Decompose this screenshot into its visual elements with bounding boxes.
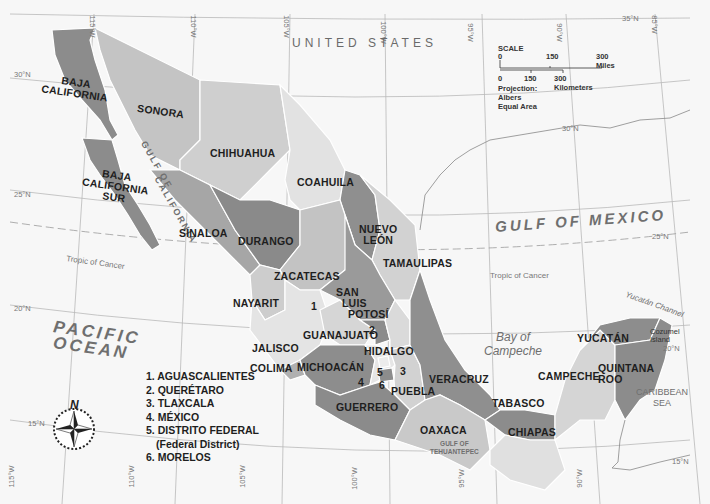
lon-90-bottom-label: 90°W [575, 469, 584, 487]
legend-item: 4. MÉXICO [146, 411, 259, 425]
label-chiapas: CHIAPAS [508, 427, 556, 438]
label-sinaloa: SINALOA [179, 228, 228, 239]
map-scale: SCALE 0 150 300 Miles 0 150 300 Kilomete… [498, 44, 523, 53]
label-nuevo-leon: NUEVO LEÓN [359, 224, 397, 246]
lon-100-bottom-label: 100°W [350, 467, 359, 490]
united-states-label: UNITED STATES [292, 36, 437, 50]
legend-item: 2. QUERÉTARO [146, 384, 259, 398]
lat-20-east-label: 20°N [663, 344, 680, 353]
lat-15-east-label: 15°N [672, 457, 689, 466]
gulf-of-tehuantepec-label: GULF OF TEHUANTEPEC [430, 440, 479, 456]
label-san-luis-potosi: SAN LUIS POTOSÍ [336, 287, 389, 320]
map-graphic [0, 0, 710, 504]
scale-km-150: 150 [524, 74, 537, 83]
label-tamaulipas: TAMAULIPAS [383, 258, 452, 269]
label-guerrero: GUERRERO [336, 402, 398, 413]
marker-5-distrito-federal: 5 [377, 367, 383, 378]
mexico-map: 30°N 25°N 20°N 15°N 35°N 30°N 25°N 20°N … [0, 0, 710, 504]
lon-95-bottom-label: 95°W [457, 469, 466, 487]
label-hidalgo: HIDALGO [364, 346, 414, 357]
state-number-legend: 1. AGUASCALIENTES 2. QUERÉTARO 3. TLAXCA… [146, 370, 259, 465]
label-zacatecas: ZACATECAS [274, 271, 340, 282]
scale-km-300: 300 Kilometers [554, 74, 593, 92]
marker-4-mexico: 4 [358, 377, 364, 388]
scale-bars [500, 60, 602, 73]
lon-105-label: 105°W [282, 15, 291, 38]
state-campeche [555, 330, 615, 440]
tropic-label-east: Tropic of Cancer [490, 271, 549, 280]
lon-90-label: 90°W [555, 23, 564, 41]
state-coahuila [280, 85, 345, 210]
lon-85-label: 85°W [650, 15, 659, 33]
label-puebla: PUEBLA [391, 386, 435, 397]
label-campeche: CAMPECHE [538, 371, 600, 382]
scale-miles-150: 150 [546, 52, 559, 61]
label-tabasco: TABASCO [492, 398, 545, 409]
lat-15-label: 15°N [28, 419, 45, 428]
label-jalisco: JALISCO [252, 343, 299, 354]
lat-30-east-label: 30°N [562, 124, 579, 133]
lon-95-label: 95°W [466, 23, 475, 41]
lon-115-bottom-label: 115°W [7, 465, 16, 487]
marker-3-tlaxcala: 3 [400, 366, 406, 377]
label-nayarit: NAYARIT [233, 298, 279, 309]
legend-item: 6. MORELOS [146, 451, 259, 465]
label-guanajuato: GUANAJUATO [303, 330, 378, 341]
scale-miles-0: 0 [498, 52, 502, 61]
projection-label: Projection: Albers Equal Area [498, 84, 537, 111]
label-yucatan: YUCATÁN [577, 333, 629, 344]
label-michoacan: MICHOACÁN [297, 362, 364, 373]
lat-25-label: 25°N [14, 190, 31, 199]
lon-110-label: 110°W [189, 15, 198, 37]
marker-2-queretaro: 2 [369, 325, 375, 336]
scale-km-0: 0 [498, 74, 502, 83]
scale-miles-300: 300 Miles [596, 52, 615, 70]
marker-1-aguascalientes: 1 [311, 301, 317, 312]
label-quintana-roo: QUINTANA ROO [598, 363, 654, 385]
lon-110-bottom-label: 110°W [127, 465, 136, 487]
compass-north-label: N [70, 398, 79, 412]
legend-item: (Federal District) [146, 438, 259, 452]
compass-rose [54, 409, 94, 449]
caribbean-sea-label: CARIBBEAN SEA [636, 387, 688, 409]
bay-of-campeche-label: Bay of Campeche [484, 330, 542, 358]
legend-item: 5. DISTRITO FEDERAL [146, 424, 259, 438]
legend-item: 3. TLAXCALA [146, 397, 259, 411]
lat-20-label: 20°N [14, 304, 31, 313]
label-durango: DURANGO [238, 236, 294, 247]
lon-105-bottom-label: 105°W [238, 465, 247, 488]
state-chiapas [490, 435, 565, 490]
label-oaxaca: OAXACA [420, 425, 467, 436]
label-coahuila: COAHUILA [297, 177, 354, 188]
legend-item: 1. AGUASCALIENTES [146, 370, 259, 384]
marker-6-morelos: 6 [379, 380, 385, 391]
label-veracruz: VERACRUZ [429, 374, 489, 385]
cozumel-island-label: Cozumel Island [650, 328, 680, 344]
lat-25-east-label: 25°N [652, 232, 669, 241]
lat-35-label: 35°N [622, 14, 639, 23]
lon-115-label: 115°W [88, 15, 97, 37]
label-chihuahua: CHIHUAHUA [210, 148, 275, 159]
lat-30-label: 30°N [14, 70, 31, 79]
